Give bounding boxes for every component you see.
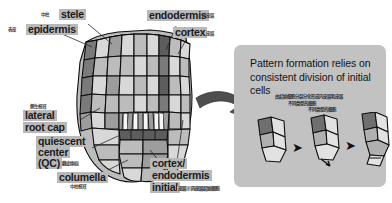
columella-label: columella — [57, 172, 108, 183]
stage-1-cell-cluster — [258, 117, 286, 162]
initial-cell-division-stages: .pc{stroke:#101010;stroke-width:1.1;stro… — [240, 112, 392, 182]
stage-arrow-1: ➤ — [292, 140, 303, 155]
epidermis-label-cn: 表皮 — [8, 27, 16, 32]
columella-label-cn: 中柱根冠 — [70, 184, 86, 189]
lateral-root-cap-label-line1: lateral — [23, 110, 57, 121]
panel-subtitle-cn-line1: 由起始细胞分裂分化形成内皮层和皮层 — [275, 94, 383, 99]
quiescent-center-label-line3: (QC) — [36, 158, 62, 169]
stage-diagram-caption: 不同类型的细胞 — [282, 106, 362, 112]
endodermis-label-cn: 内皮层 — [202, 13, 214, 18]
lateral-root-cap-label-line2: root cap — [23, 122, 67, 133]
stele-label: stele — [59, 9, 86, 20]
stele-label-cn: 中柱 — [41, 12, 49, 17]
panel-title: Pattern formation relies on consistent d… — [250, 57, 382, 98]
cortex-endodermis-initial-label-line3: initial — [150, 182, 180, 193]
cortex-label: cortex — [173, 27, 207, 38]
panel-title-line2: consistent division of initial — [250, 71, 382, 85]
cortex-label-cn: 皮层 — [206, 31, 214, 36]
stage-arrow-2: ➤ — [345, 138, 356, 153]
quiescent-center-cells — [119, 130, 168, 140]
epidermis-label: epidermis — [26, 24, 78, 35]
cortex-endodermis-initial-label-cn: 皮层 / 内皮层起始细胞 — [177, 186, 220, 191]
endodermis-cells — [159, 35, 170, 112]
panel-title-line1: Pattern formation relies on — [250, 57, 382, 71]
stage-3-cell-cluster — [362, 112, 389, 166]
quiescent-center-label-cn: 静止中心 — [61, 161, 79, 166]
stele-cells — [119, 34, 159, 113]
cortex-endodermis-initial-label-line1: cortex/ — [150, 158, 187, 169]
figure-canvas: .c{stroke:#0d0d0d;stroke-width:1.1;strok… — [0, 0, 392, 203]
endodermis-label: endodermis — [147, 10, 209, 21]
cortex-endodermis-initial-label-line2: endodermis — [150, 170, 212, 181]
initial-cells-striped-zone — [119, 112, 169, 130]
stage-2-cell-cluster — [311, 115, 339, 166]
